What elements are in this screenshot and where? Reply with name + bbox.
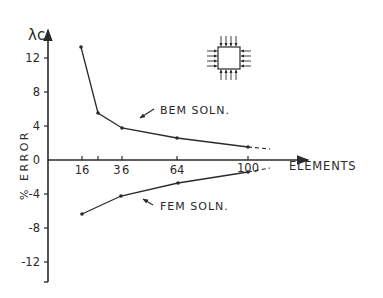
x-axis-label: ELEMENTS bbox=[289, 159, 356, 173]
bem-label: BEM SOLN. bbox=[160, 104, 230, 117]
y-tick-neg8: -8 bbox=[29, 221, 40, 235]
x-axis: 16 36 64 100 ELEMENTS bbox=[48, 156, 356, 177]
y-tick-neg12: -12 bbox=[21, 255, 40, 269]
error-convergence-chart: 12 8 4 0 -4 -8 -12 λc % ERROR 16 36 64 1… bbox=[0, 0, 383, 298]
y-axis-label: % ERROR bbox=[18, 130, 31, 200]
plate-load-inset-icon bbox=[207, 36, 251, 80]
y-tick-4: 4 bbox=[33, 119, 40, 133]
x-tick-16: 16 bbox=[75, 163, 90, 177]
y-tick-8: 8 bbox=[33, 85, 40, 99]
y-tick-12: 12 bbox=[25, 51, 40, 65]
x-tick-36: 36 bbox=[113, 163, 131, 177]
y-axis: 12 8 4 0 -4 -8 -12 λc % ERROR bbox=[18, 26, 48, 282]
lambda-c-symbol: λc bbox=[28, 26, 45, 44]
y-tick-0: 0 bbox=[33, 153, 40, 167]
fem-label: FEM SOLN. bbox=[160, 200, 229, 213]
x-tick-64: 64 bbox=[170, 163, 185, 177]
